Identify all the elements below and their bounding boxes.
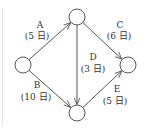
node-top [69, 9, 85, 25]
edge-E-duration: (5 日) [103, 96, 128, 106]
edge-A-duration: (5 日) [25, 31, 50, 41]
edge-A-name: A [36, 20, 44, 30]
edge-D-duration: (3 日) [81, 64, 106, 74]
edge-C-duration: (6 日) [107, 31, 132, 41]
node-end [120, 57, 136, 73]
node-start [15, 57, 31, 73]
edge-B-name: B [34, 80, 41, 90]
edge-E-name: E [114, 84, 121, 94]
edge-A-arrow [29, 23, 71, 60]
node-bottom [69, 105, 85, 121]
activity-network-diagram: A (5 日) B (10 日) C (6 日) D (3 日) E (5 日) [0, 0, 150, 135]
edge-B-duration: (10 日) [21, 92, 51, 102]
edge-D-name: D [89, 52, 96, 62]
edge-C-name: C [117, 20, 124, 30]
